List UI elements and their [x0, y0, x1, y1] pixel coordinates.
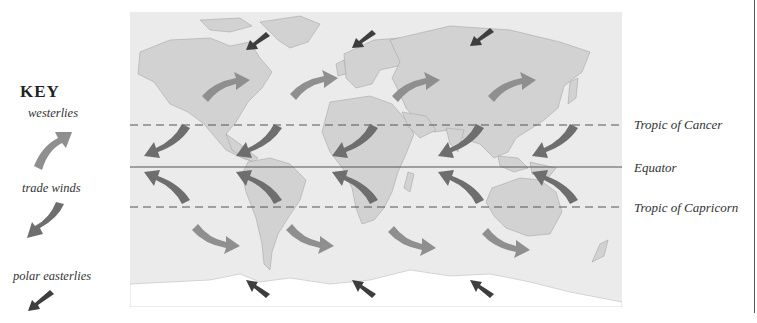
right-border-rule — [754, 0, 755, 313]
legend-label-westerlies: westerlies — [28, 106, 78, 121]
polar-easterlies-arrow-icon — [26, 288, 56, 314]
legend: KEY westerlies trade winds polar easterl… — [0, 0, 125, 323]
continents — [130, 16, 622, 307]
westerlies-south — [192, 224, 530, 258]
label-tropic-of-cancer: Tropic of Cancer — [634, 117, 722, 133]
legend-label-polar-easterlies: polar easterlies — [13, 269, 91, 284]
westerlies-arrow-icon — [28, 124, 78, 174]
trade-winds-arrow-icon — [24, 200, 70, 242]
label-equator: Equator — [634, 160, 677, 176]
world-map — [130, 12, 622, 307]
world-map-graphic — [130, 12, 622, 307]
label-tropic-of-capricorn: Tropic of Capricorn — [634, 200, 738, 216]
legend-label-trade-winds: trade winds — [22, 181, 81, 196]
legend-title: KEY — [20, 82, 60, 102]
